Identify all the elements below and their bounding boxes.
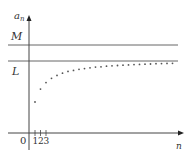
sequence-point <box>40 88 42 90</box>
sequence-point <box>161 63 163 65</box>
sequence-point <box>73 70 75 72</box>
sequence-point <box>106 65 108 67</box>
x-axis-label: n <box>176 141 182 151</box>
sequence-point <box>122 64 124 66</box>
sequence-point <box>117 65 119 67</box>
x-axis-arrow-icon <box>178 131 184 136</box>
sequence-point <box>78 68 80 70</box>
sequence-point <box>56 75 58 77</box>
sequence-diagram: an M L 0 1 2 3 n <box>0 0 189 162</box>
sequence-point <box>150 63 152 65</box>
sequence-point <box>51 77 53 79</box>
x-tick-label-3: 3 <box>44 136 50 146</box>
sequence-point <box>34 101 36 103</box>
sequence-point <box>172 62 174 64</box>
sequence-point <box>133 64 135 66</box>
sequence-point <box>155 63 157 65</box>
y-axis-label: an <box>14 10 25 23</box>
sequence-point <box>128 64 130 66</box>
label-M: M <box>10 30 23 43</box>
sequence-point <box>95 66 97 68</box>
sequence-point <box>45 82 47 84</box>
y-axis-arrow-icon <box>27 15 32 21</box>
sequence-point <box>84 68 86 70</box>
label-L: L <box>11 65 19 78</box>
sequence-point <box>67 71 69 73</box>
origin-label: 0 <box>20 135 26 146</box>
sequence-point <box>111 65 113 67</box>
sequence-point <box>139 64 141 66</box>
sequence-points <box>34 62 173 103</box>
sequence-point <box>62 72 64 74</box>
sequence-point <box>100 66 102 68</box>
sequence-point <box>166 63 168 65</box>
sequence-point <box>144 63 146 65</box>
sequence-point <box>89 67 91 69</box>
